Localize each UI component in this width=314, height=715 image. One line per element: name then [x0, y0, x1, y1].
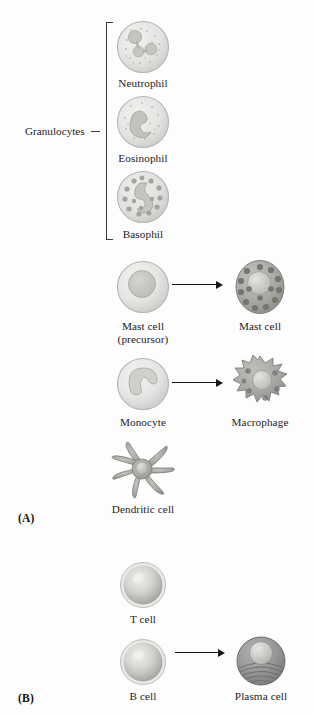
arrow-head	[216, 379, 223, 387]
arrow-bcell-differentiation	[175, 648, 225, 657]
macrophage-label: Macrophage	[205, 416, 314, 429]
immune-cell-lineage-figure: Granulocytes	[0, 0, 314, 715]
b-cell-label: B cell	[93, 690, 193, 703]
plasma-cell-label: Plasma cell	[206, 690, 314, 703]
dendritic-cell-label: Dendritic cell	[78, 503, 208, 516]
monocyte-label: Monocyte	[88, 416, 198, 429]
bracket-connector-tick	[91, 131, 100, 132]
arrow-head	[218, 649, 225, 657]
panel-b-label: (B)	[18, 692, 34, 704]
bracket-spine	[106, 22, 107, 240]
eosinophil-cell	[114, 93, 172, 151]
plasma-cell	[233, 634, 289, 688]
basophil-cell	[114, 168, 172, 226]
monocyte-cell	[114, 355, 172, 413]
mast-cell-mature-label: Mast cell	[205, 320, 314, 333]
mast-cell-precursor-label: Mast cell (precursor)	[78, 320, 208, 345]
panel-a-label: (A)	[18, 512, 35, 524]
t-cell-label: T cell	[93, 613, 193, 626]
arrow-mast-maturation	[172, 280, 223, 289]
granulocytes-label: Granulocytes	[25, 125, 85, 137]
arrow-head	[216, 281, 223, 289]
arrow-shaft	[172, 382, 217, 383]
cropped-caption-remnant	[60, 0, 270, 3]
granulocytes-bracket	[100, 22, 114, 240]
neutrophil-cell	[114, 18, 172, 76]
macrophage-cell	[229, 353, 291, 415]
arrow-shaft	[172, 284, 217, 285]
arrow-shaft	[175, 652, 219, 653]
t-cell	[118, 560, 168, 610]
mast-cell-precursor	[114, 258, 172, 316]
bracket-arm-top	[106, 22, 113, 23]
basophil-label: Basophil	[83, 228, 203, 241]
arrow-monocyte-differentiation	[172, 378, 223, 387]
mast-cell-mature	[230, 258, 290, 316]
neutrophil-label: Neutrophil	[83, 77, 203, 90]
dendritic-cell	[109, 438, 177, 500]
b-cell	[118, 637, 168, 687]
eosinophil-label: Eosinophil	[83, 152, 203, 165]
